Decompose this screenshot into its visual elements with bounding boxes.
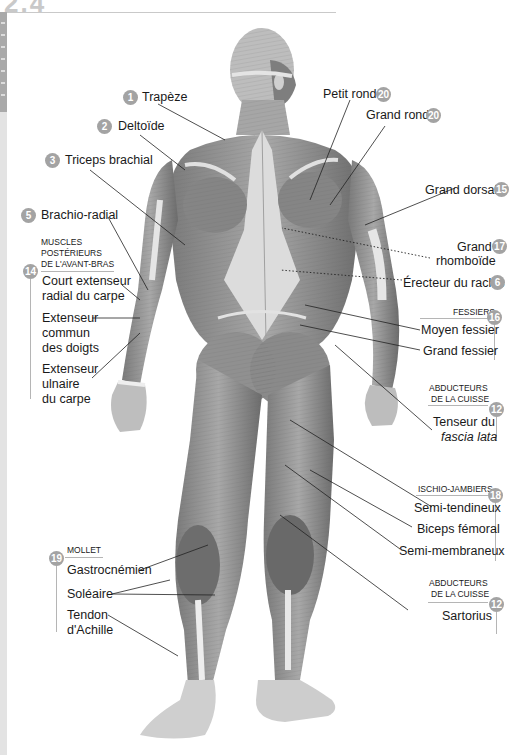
group-title-line: POSTÉRIEURS	[41, 248, 102, 259]
label-extenseur-ulnaire: ulnaire	[42, 377, 80, 392]
group-vertical-rule	[496, 612, 497, 634]
badge-number: 5	[21, 208, 36, 223]
group-rule	[416, 495, 488, 496]
label-deltoide: Deltoïde	[118, 119, 165, 134]
group-title-line: DE LA CUISSE	[431, 589, 489, 600]
group-rule	[65, 557, 103, 558]
group-title-line: MUSCLES	[41, 237, 82, 248]
label-sartorius: Sartorius	[442, 609, 492, 624]
badge-number: 1	[123, 90, 138, 105]
badge-number: 6	[490, 275, 505, 290]
label-grand-dorsal: Grand dorsal	[425, 183, 497, 198]
group-title: ISCHIO-JAMBIERS	[418, 484, 493, 495]
label-court-extenseur: radial du carpe	[42, 289, 125, 304]
label-grand-rhomboide-line1: Grand	[457, 240, 492, 255]
label-extenseur-commun: Extenseur	[42, 311, 98, 326]
group-title: MOLLET	[67, 545, 101, 556]
group-vertical-rule	[30, 279, 31, 399]
label-extenseur-ulnaire: Extenseur	[42, 362, 98, 377]
label-tendon-achille: d'Achille	[67, 623, 113, 638]
badge-number: 19	[49, 551, 64, 566]
label-soleaire: Soléaire	[67, 587, 113, 602]
badge-number: 14	[23, 264, 38, 279]
label-grand-fessier: Grand fessier	[423, 344, 498, 359]
badge-number: 2	[97, 119, 112, 134]
group-title-line: DE L'AVANT-BRAS	[41, 259, 114, 270]
label-triceps-brachial: Triceps brachial	[65, 153, 153, 168]
label-semi-membraneux: Semi-membraneux	[399, 544, 505, 559]
label-tendon-achille: Tendon	[67, 608, 108, 623]
badge-number: 17	[492, 239, 507, 254]
label-court-extenseur: Court extenseur	[42, 274, 131, 289]
group-title-line: DE LA CUISSE	[431, 394, 489, 405]
group-rule	[420, 318, 488, 319]
badge-number: 20	[376, 87, 391, 102]
label-extenseur-ulnaire: du carpe	[42, 392, 91, 407]
badge-number: 15	[494, 182, 509, 197]
badge-number: 3	[45, 153, 60, 168]
group-title-line: ABDUCTEURS	[429, 383, 488, 394]
label-biceps-femoral: Biceps fémoral	[417, 522, 500, 537]
label-brachio-radial: Brachio-radial	[41, 208, 118, 223]
group-rule	[41, 271, 114, 272]
label-petit-rond: Petit rond	[323, 87, 377, 102]
group-title-line: ABDUCTEURS	[429, 578, 488, 589]
label-grand-rhomboide-line2: rhomboïde	[436, 254, 496, 269]
label-extenseur-commun: des doigts	[42, 341, 99, 356]
label-tenseur-fascia-lata: fascia lata	[441, 430, 497, 445]
label-tenseur-fascia-lata: Tenseur du	[433, 415, 495, 430]
label-extenseur-commun: commun	[42, 326, 90, 341]
label-trapeze: Trapèze	[142, 90, 187, 105]
head	[230, 28, 296, 112]
group-rule	[428, 405, 488, 406]
group-vertical-rule	[56, 566, 57, 632]
label-gastrocnemien: Gastrocnémien	[67, 563, 152, 578]
label-grand-rond: Grand rond	[366, 108, 429, 123]
label-semi-tendineux: Semi-tendineux	[414, 501, 501, 516]
label-moyen-fessier: Moyen fessier	[421, 323, 499, 338]
badge-number: 20	[426, 108, 441, 123]
group-rule	[428, 602, 488, 603]
